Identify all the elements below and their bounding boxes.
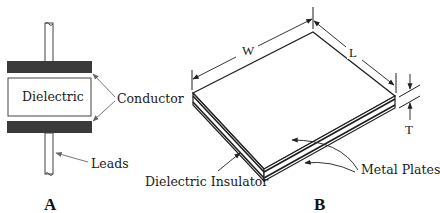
metal-plates-label: Metal Plates bbox=[361, 164, 440, 177]
figure-b bbox=[192, 7, 420, 181]
dielectric-insulator-label: Dielectric Insulator bbox=[145, 176, 268, 189]
leads-label: Leads bbox=[91, 158, 129, 171]
conductor-arrow-bottom bbox=[93, 101, 115, 121]
figure-a-caption: A bbox=[44, 196, 56, 213]
dielectric-insulator-arrow bbox=[218, 153, 240, 171]
conductor-arrow-top bbox=[93, 74, 115, 97]
length-dimension-label: L bbox=[347, 46, 359, 59]
leads-arrow bbox=[56, 153, 88, 162]
top-lead bbox=[45, 23, 53, 63]
bottom-conductor-plate bbox=[7, 121, 92, 133]
bottom-lead bbox=[45, 133, 53, 176]
dielectric-label: Dielectric bbox=[22, 91, 84, 104]
figure-b-caption: B bbox=[314, 196, 325, 213]
metal-plates-arrow-bottom bbox=[305, 162, 355, 172]
top-conductor-plate bbox=[7, 61, 92, 73]
thickness-dimension-label: T bbox=[403, 123, 415, 136]
top-face bbox=[193, 32, 395, 169]
width-dimension-label: W bbox=[240, 44, 256, 57]
conductor-label: Conductor bbox=[117, 93, 184, 106]
